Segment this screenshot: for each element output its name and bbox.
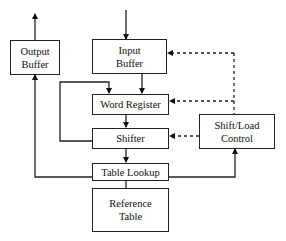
lookup-to-output-arrow bbox=[35, 75, 92, 177]
shift-load-control-label-2: Control bbox=[215, 132, 260, 145]
shifter-label: Shifter bbox=[116, 132, 145, 145]
shift-load-control-label-1: Shift/Load bbox=[215, 119, 260, 132]
table-lookup-label: Table Lookup bbox=[101, 166, 159, 179]
input-buffer-label-2: Buffer bbox=[116, 57, 143, 70]
block-diagram: Output Buffer Input Buffer Word Register… bbox=[0, 0, 286, 241]
output-buffer-label-1: Output bbox=[20, 45, 49, 58]
reference-table-box: Reference Table bbox=[92, 188, 169, 232]
output-buffer-box: Output Buffer bbox=[10, 40, 60, 75]
shift-load-control-box: Shift/Load Control bbox=[199, 114, 275, 149]
table-lookup-box: Table Lookup bbox=[92, 163, 169, 181]
input-buffer-box: Input Buffer bbox=[92, 39, 167, 74]
word-register-label: Word Register bbox=[100, 98, 161, 111]
lookup-to-control-arrow bbox=[168, 149, 235, 177]
reference-table-label-1: Reference bbox=[109, 197, 152, 210]
word-register-box: Word Register bbox=[92, 94, 169, 115]
shifter-box: Shifter bbox=[92, 128, 169, 149]
reference-table-label-2: Table bbox=[109, 210, 152, 223]
input-buffer-label-1: Input bbox=[116, 44, 143, 57]
output-buffer-label-2: Buffer bbox=[20, 58, 49, 71]
